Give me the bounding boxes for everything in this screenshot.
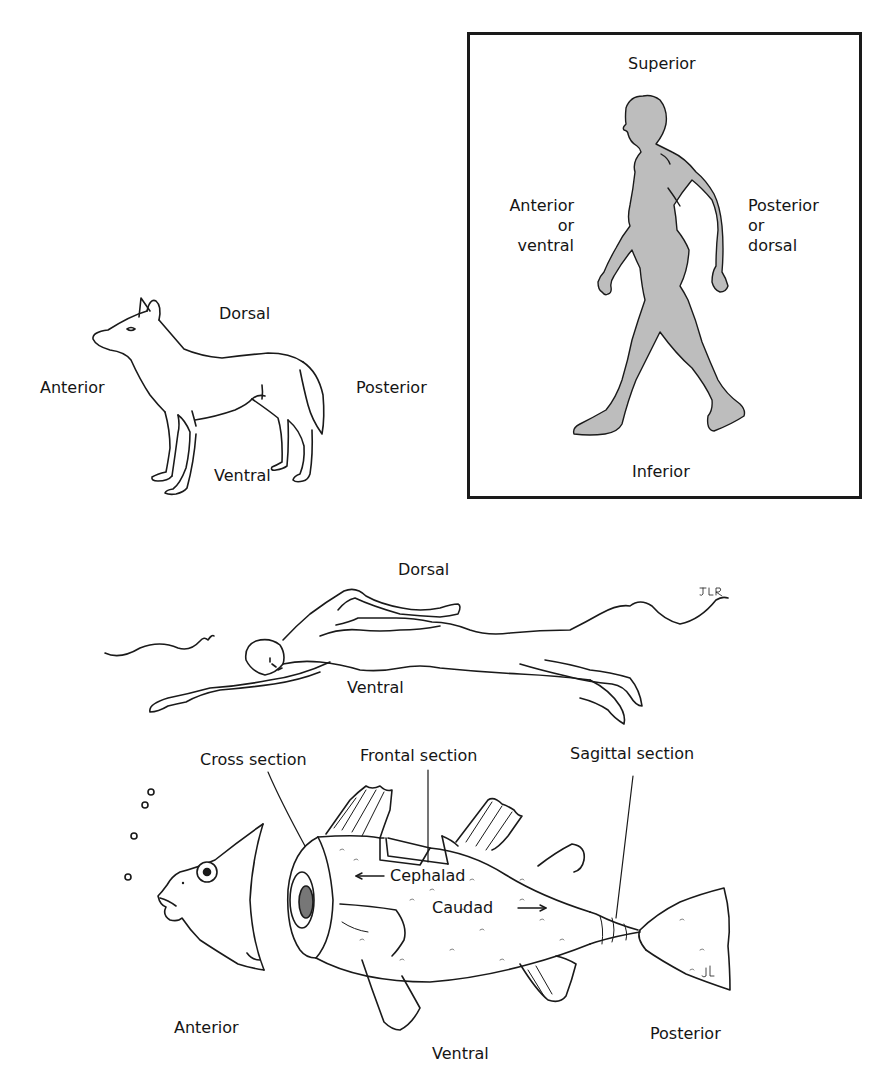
fish-label-ventral: Ventral [432,1044,489,1064]
swimmer-label-ventral: Ventral [347,678,404,698]
fish-label-anterior: Anterior [174,1018,239,1038]
swimmer-illustration [105,588,728,724]
fish-label-posterior: Posterior [650,1024,721,1044]
human-label-posterior-line3: dorsal [748,236,819,256]
human-label-anterior-line1: Anterior [500,196,574,216]
dog-label-dorsal: Dorsal [219,304,270,324]
fish-label-cephalad: Cephalad [390,866,466,886]
fish-illustration [125,770,730,1030]
human-label-anterior-or-ventral: Anterior or ventral [500,196,574,256]
swimmer-label-dorsal: Dorsal [398,560,449,580]
fish-label-cross-section: Cross section [200,750,307,770]
fish-label-caudad: Caudad [432,898,493,918]
standing-human-frame [467,32,862,499]
human-label-superior: Superior [628,54,696,74]
dog-label-ventral: Ventral [214,466,271,486]
human-label-posterior-or-dorsal: Posterior or dorsal [748,196,819,256]
dog-label-anterior: Anterior [40,378,105,398]
fish-label-sagittal-section: Sagittal section [570,744,694,764]
human-label-anterior-line2: or [500,216,574,236]
human-label-inferior: Inferior [632,462,690,482]
dog-label-posterior: Posterior [356,378,427,398]
dog-illustration [93,298,324,494]
human-label-posterior-line1: Posterior [748,196,819,216]
human-label-posterior-line2: or [748,216,819,236]
fish-label-frontal-section: Frontal section [360,746,477,766]
human-label-anterior-line3: ventral [500,236,574,256]
